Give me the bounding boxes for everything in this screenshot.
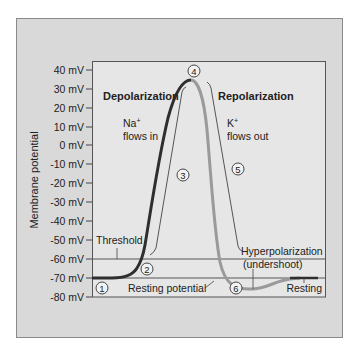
y-tick-label: 0 mV xyxy=(59,139,84,151)
svg-text:6: 6 xyxy=(233,283,238,294)
k-flows-label: flows out xyxy=(227,130,269,142)
svg-text:4: 4 xyxy=(191,66,196,77)
step-3: 3 xyxy=(177,169,189,181)
undershoot-label: (undershoot) xyxy=(243,258,303,270)
y-tick-label: -40 mV xyxy=(50,215,84,227)
y-tick-label: -30 mV xyxy=(50,196,84,208)
y-tick-label: -50 mV xyxy=(50,234,84,246)
y-tick-label: -80 mV xyxy=(50,291,84,303)
y-axis-title: Membrane potential xyxy=(28,131,40,228)
y-tick-label: 10 mV xyxy=(54,121,84,133)
step-6: 6 xyxy=(230,282,242,294)
step-5: 5 xyxy=(232,163,244,175)
y-tick-label: -60 mV xyxy=(50,253,84,265)
action-potential-figure: 40 mV 30 mV 20 mV 10 mV 0 mV -10 mV -20 … xyxy=(0,0,359,352)
y-tick-label: 30 mV xyxy=(54,83,84,95)
y-tick-label: -70 mV xyxy=(50,272,84,284)
y-tick-label: -20 mV xyxy=(50,177,84,189)
svg-text:5: 5 xyxy=(235,164,240,175)
step-2: 2 xyxy=(141,263,153,275)
y-tick-label: -10 mV xyxy=(50,158,84,170)
step-4: 4 xyxy=(188,65,200,77)
y-tick-label: 40 mV xyxy=(54,64,84,76)
repolarization-label: Repolarization xyxy=(218,90,294,102)
hyperpolarization-label: Hyperpolarization xyxy=(241,245,323,257)
svg-text:3: 3 xyxy=(180,170,185,181)
svg-text:1: 1 xyxy=(99,283,104,294)
resting-potential-label: Resting potential xyxy=(128,282,206,294)
na-flows-label: flows in xyxy=(123,130,158,142)
y-tick-label: 20 mV xyxy=(54,102,84,114)
depolarization-label: Depolarization xyxy=(103,90,179,102)
step-1: 1 xyxy=(96,282,108,294)
resting-label: Resting xyxy=(286,282,322,294)
threshold-label: Threshold xyxy=(96,234,143,246)
svg-text:2: 2 xyxy=(144,264,149,275)
